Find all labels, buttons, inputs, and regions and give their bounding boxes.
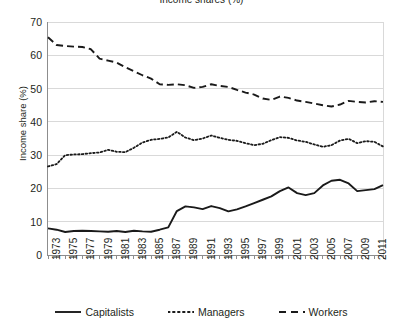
- y-tick-label: 20: [16, 182, 42, 194]
- y-tick-label: 40: [16, 116, 42, 128]
- x-tick-label: 1973: [51, 238, 62, 260]
- x-tick-label: 1981: [120, 238, 131, 260]
- legend-label: Workers: [309, 306, 348, 318]
- legend-label: Capitalists: [85, 306, 133, 318]
- legend-swatch-dotted: [168, 307, 194, 317]
- x-tick-label: 2011: [377, 238, 388, 260]
- y-axis-tick-labels: 010203040506070: [12, 0, 42, 331]
- series-line-capitalists: [48, 180, 383, 232]
- y-tick-label: 60: [16, 49, 42, 61]
- x-tick-label: 2009: [360, 238, 371, 260]
- y-tick-label: 50: [16, 83, 42, 95]
- series-line-managers: [48, 132, 383, 167]
- series-line-workers: [48, 37, 383, 106]
- x-tick-label: 1995: [240, 238, 251, 260]
- legend-swatch-solid: [55, 307, 81, 317]
- x-tick-label: 1997: [257, 238, 268, 260]
- legend-item-managers: Managers: [168, 306, 245, 318]
- legend-label: Managers: [198, 306, 245, 318]
- x-tick-label: 1979: [103, 238, 114, 260]
- chart-legend: CapitalistsManagersWorkers: [0, 306, 403, 318]
- x-tick-label: 1987: [171, 238, 182, 260]
- legend-item-workers: Workers: [279, 306, 348, 318]
- x-tick-label: 1989: [188, 238, 199, 260]
- legend-swatch-dashed: [279, 307, 305, 317]
- chart-title: Income shares (%): [0, 0, 403, 5]
- legend-item-capitalists: Capitalists: [55, 306, 133, 318]
- x-tick-label: 1991: [206, 238, 217, 260]
- income-share-line-chart: Income shares (%) Income share (%) 01020…: [0, 0, 403, 331]
- x-tick-label: 2005: [326, 238, 337, 260]
- x-axis-tick-labels: 1973197519771979198119831985198719891991…: [47, 258, 387, 308]
- x-tick-label: 2003: [309, 238, 320, 260]
- x-tick-label: 1999: [274, 238, 285, 260]
- y-tick-label: 30: [16, 149, 42, 161]
- x-tick-label: 1993: [223, 238, 234, 260]
- y-tick-label: 70: [16, 16, 42, 28]
- x-tick-label: 1975: [68, 238, 79, 260]
- plot-area: [47, 22, 383, 256]
- x-tick-label: 2007: [343, 238, 354, 260]
- plot-svg: [48, 22, 383, 255]
- x-tick-label: 1977: [85, 238, 96, 260]
- x-tick-label: 1983: [137, 238, 148, 260]
- x-tick-label: 2001: [292, 238, 303, 260]
- y-tick-label: 0: [16, 249, 42, 261]
- data-series-layer: [48, 37, 383, 232]
- x-tick-label: 1985: [154, 238, 165, 260]
- y-tick-label: 10: [16, 216, 42, 228]
